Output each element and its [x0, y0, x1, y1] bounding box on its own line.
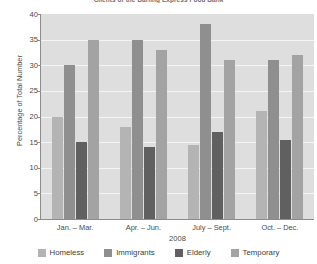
x-axis-tick-labels: Jan. – Mar.Apr. – Jun.July – Sept.Oct. –…: [41, 223, 314, 232]
chart-legend: HomelessImmigrantsElderlyTemporary: [0, 248, 317, 257]
x-axis-tick-label: Apr. – Jun.: [109, 223, 177, 232]
y-axis-tick-mark: [37, 117, 40, 118]
x-axis-tick-label: Jan. – Mar.: [41, 223, 109, 232]
legend-item-homeless[interactable]: Homeless: [38, 248, 85, 257]
legend-label: Temporary: [243, 248, 280, 257]
legend-swatch-icon: [38, 249, 46, 257]
bar-immigrants: [132, 40, 143, 219]
bar-group: [41, 14, 109, 219]
bar-elderly: [280, 140, 291, 219]
bar-temporary: [292, 55, 303, 219]
bar-elderly: [76, 142, 87, 219]
bar-elderly: [212, 132, 223, 219]
bar-groups: [41, 14, 314, 219]
bar-homeless: [120, 127, 131, 219]
bar-group: [109, 14, 177, 219]
legend-swatch-icon: [104, 249, 112, 257]
y-axis-tick-labels: 0510152025303540: [16, 14, 38, 220]
y-axis-tick-label: 35: [16, 36, 38, 43]
y-axis-tick-mark: [37, 14, 40, 15]
y-axis-tick-mark: [37, 193, 40, 194]
bar-temporary: [224, 60, 235, 219]
chart-title: Clients of the Darling Express Food Bank: [0, 0, 317, 3]
x-axis-tick-label: Oct. – Dec.: [246, 223, 314, 232]
bar-group: [246, 14, 314, 219]
x-axis-line: [40, 219, 314, 220]
y-axis-tick-mark: [37, 40, 40, 41]
y-axis-tick-label: 40: [16, 11, 38, 18]
y-axis-tick-label: 20: [16, 113, 38, 120]
y-axis-tick-mark: [37, 168, 40, 169]
bar-homeless: [256, 111, 267, 219]
y-axis-tick-label: 25: [16, 87, 38, 94]
x-axis-title: 2008: [41, 234, 314, 243]
bar-temporary: [88, 40, 99, 219]
bar-homeless: [188, 145, 199, 219]
legend-item-temporary[interactable]: Temporary: [231, 248, 280, 257]
y-axis-tick-mark: [37, 142, 40, 143]
legend-label: Homeless: [50, 248, 85, 257]
x-axis-tick-label: July – Sept.: [178, 223, 246, 232]
legend-swatch-icon: [175, 249, 183, 257]
bar-elderly: [144, 147, 155, 219]
legend-label: Immigrants: [116, 248, 155, 257]
bar-chart: Clients of the Darling Express Food Bank…: [0, 0, 317, 264]
plot-area: [41, 14, 314, 219]
bar-temporary: [156, 50, 167, 219]
bar-immigrants: [200, 24, 211, 219]
y-axis-tick-mark: [37, 219, 40, 220]
y-axis-tick-label: 15: [16, 139, 38, 146]
legend-swatch-icon: [231, 249, 239, 257]
legend-label: Elderly: [187, 248, 211, 257]
bar-immigrants: [64, 65, 75, 219]
bar-homeless: [52, 117, 63, 220]
bar-immigrants: [268, 60, 279, 219]
y-axis-tick-label: 5: [16, 190, 38, 197]
y-axis-tick-label: 0: [16, 216, 38, 223]
bar-group: [178, 14, 246, 219]
y-axis-tick-mark: [37, 91, 40, 92]
y-axis-tick-mark: [37, 65, 40, 66]
y-axis-tick-label: 30: [16, 62, 38, 69]
y-axis-tick-label: 10: [16, 164, 38, 171]
legend-item-elderly[interactable]: Elderly: [175, 248, 211, 257]
legend-item-immigrants[interactable]: Immigrants: [104, 248, 155, 257]
